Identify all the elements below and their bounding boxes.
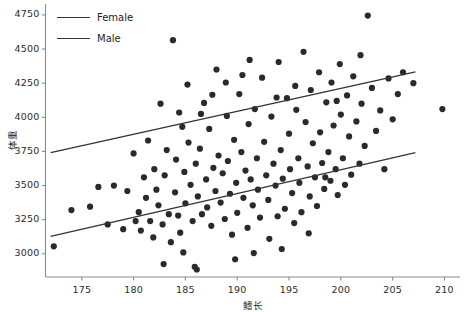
legend-label-female: Female [97,13,133,23]
x-tick-label: 175 [70,284,94,295]
y-tick-label: 4000 [15,111,40,122]
x-tick-label: 200 [329,284,353,295]
x-tick-label: 180 [122,284,146,295]
x-tick-label: 195 [277,284,301,295]
data-points [51,13,446,273]
legend-item-female[interactable]: Female [57,7,177,28]
x-axis-title: 鳍长 [233,298,273,312]
legend-item-male[interactable]: Male [57,28,177,49]
x-tick-label: 210 [432,284,456,295]
y-tick-label: 3000 [15,247,40,258]
legend-label-male: Male [97,34,121,44]
x-tick-label: 190 [225,284,249,295]
axis-tick-marks [42,15,444,281]
y-axis-title: 体重 [5,130,19,150]
y-tick-label: 3500 [15,179,40,190]
x-tick-label: 185 [173,284,197,295]
trend-lines [51,72,416,236]
legend-swatch-male [57,38,90,39]
y-tick-label: 3250 [15,213,40,224]
y-tick-label: 4250 [15,77,40,88]
chart-legend: Female Male [57,7,177,49]
y-tick-label: 4750 [15,8,40,19]
x-tick-label: 205 [381,284,405,295]
y-tick-label: 4500 [15,43,40,54]
legend-swatch-female [57,17,90,18]
